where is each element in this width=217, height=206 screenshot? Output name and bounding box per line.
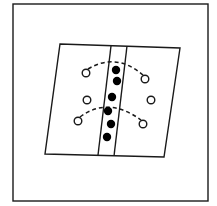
filled-dot-4 [104, 107, 112, 115]
open-circle-3 [83, 96, 91, 104]
filled-dot-1 [112, 66, 120, 74]
open-circle-6 [139, 120, 147, 128]
open-circle-4 [147, 96, 155, 104]
diagram-figure [0, 0, 217, 206]
filled-dot-3 [108, 93, 116, 101]
outer-frame [13, 4, 208, 201]
diagram-canvas: Schematic: a sheared parallelogram with … [0, 0, 217, 206]
open-circle-2 [141, 75, 149, 83]
open-circle-1 [82, 69, 90, 77]
open-circle-5 [74, 117, 82, 125]
filled-dots [103, 66, 121, 141]
filled-dot-6 [103, 133, 111, 141]
filled-dot-5 [107, 120, 115, 128]
filled-dot-2 [113, 77, 121, 85]
